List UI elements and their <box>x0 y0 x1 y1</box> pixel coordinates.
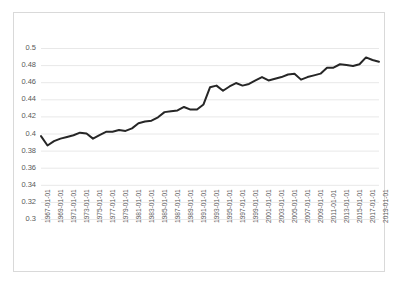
chart-canvas <box>0 0 398 289</box>
y-axis-tick-label: 0.44 <box>8 95 36 103</box>
x-axis-tick-label: 2019-01-01 <box>382 189 389 223</box>
x-axis-tick-label: 2003-01-01 <box>278 189 285 223</box>
x-axis-tick-label: 1995-01-01 <box>226 189 233 223</box>
x-axis-tick-label: 1979-01-01 <box>122 189 129 223</box>
x-axis-tick-label: 1991-01-01 <box>200 189 207 223</box>
x-axis-tick-label: 1969-01-01 <box>57 189 64 223</box>
y-axis-tick-label: 0.4 <box>8 130 36 138</box>
x-axis-tick-label: 1973-01-01 <box>83 189 90 223</box>
y-axis-tick-label: 0.3 <box>8 215 36 223</box>
x-axis-tick-label: 2013-01-01 <box>343 189 350 223</box>
x-axis-tick-label: 1999-01-01 <box>252 189 259 223</box>
line-chart: 0.50.480.460.440.420.40.380.360.340.320.… <box>0 0 398 289</box>
x-axis-tick-label: 2007-01-01 <box>304 189 311 223</box>
y-axis-tick-label: 0.42 <box>8 112 36 120</box>
x-axis-tick-label: 2001-01-01 <box>265 189 272 223</box>
y-axis-tick-label: 0.36 <box>8 164 36 172</box>
gridlines <box>41 49 379 220</box>
y-axis-tick-label: 0.32 <box>8 198 36 206</box>
data-series-line <box>41 57 379 145</box>
x-axis-tick-label: 1981-01-01 <box>135 189 142 223</box>
y-axis-tick-label: 0.34 <box>8 181 36 189</box>
x-axis-tick-label: 1997-01-01 <box>239 189 246 223</box>
x-axis-tick-label: 1987-01-01 <box>174 189 181 223</box>
x-axis-tick-label: 2005-01-01 <box>291 189 298 223</box>
x-axis-tick-label: 1975-01-01 <box>96 189 103 223</box>
x-axis-tick-label: 1985-01-01 <box>161 189 168 223</box>
x-axis-tick-label: 1967-01-01 <box>44 189 51 223</box>
y-axis-tick-label: 0.38 <box>8 147 36 155</box>
x-axis-tick-label: 1989-01-01 <box>187 189 194 223</box>
x-axis-tick-label: 2015-01-01 <box>356 189 363 223</box>
x-axis-tick-label: 2011-01-01 <box>330 190 337 223</box>
x-axis-tick-label: 1983-01-01 <box>148 189 155 223</box>
y-axis-tick-label: 0.48 <box>8 61 36 69</box>
x-axis-tick-label: 2017-01-01 <box>369 189 376 223</box>
y-axis-tick-label: 0.46 <box>8 78 36 86</box>
x-axis-tick-label: 2009-01-01 <box>317 189 324 223</box>
x-axis-tick-label: 1971-01-01 <box>70 189 77 223</box>
x-axis-tick-label: 1977-01-01 <box>109 189 116 223</box>
y-axis-tick-label: 0.5 <box>8 44 36 52</box>
x-axis-tick-label: 1993-01-01 <box>213 189 220 223</box>
